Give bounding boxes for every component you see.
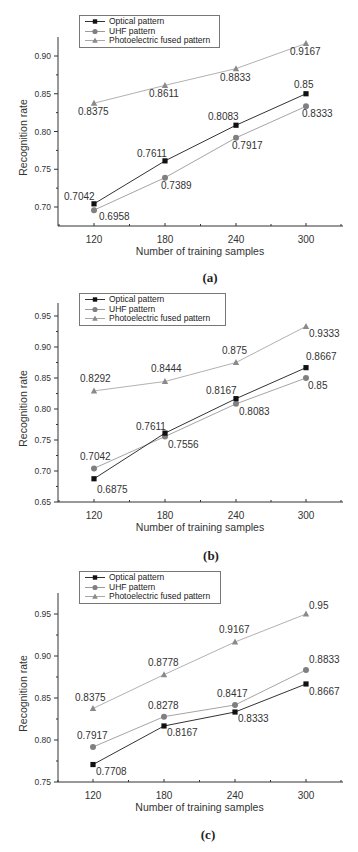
data-label: 0.8667 bbox=[306, 351, 337, 362]
y-tick-label: 0.95 bbox=[34, 311, 51, 321]
circle-marker-icon bbox=[84, 583, 106, 592]
square-marker bbox=[91, 201, 96, 206]
square-marker bbox=[233, 123, 238, 128]
x-tick-label: 240 bbox=[227, 790, 244, 801]
x-axis-title: Number of training samples bbox=[136, 245, 264, 257]
data-label: 0.7611 bbox=[137, 148, 167, 159]
data-label: 0.85 bbox=[308, 380, 328, 391]
data-label: 0.7917 bbox=[77, 730, 108, 741]
triangle-marker bbox=[303, 611, 309, 617]
square-marker-icon bbox=[84, 573, 106, 582]
data-label: 0.8444 bbox=[151, 363, 182, 374]
square-marker bbox=[303, 681, 308, 686]
circle-marker bbox=[91, 207, 97, 213]
line-chart-c: 0.750.800.850.900.95120180240300Number o… bbox=[0, 560, 358, 852]
square-marker bbox=[303, 365, 308, 370]
data-label: 0.8278 bbox=[148, 700, 179, 711]
data-label: 0.7556 bbox=[168, 439, 199, 450]
x-tick-label: 240 bbox=[228, 234, 245, 245]
data-label: 0.9333 bbox=[309, 328, 340, 339]
series-line bbox=[93, 684, 306, 765]
circle-marker-icon bbox=[84, 27, 106, 36]
series-triangle: 0.83750.86110.88330.9167 bbox=[78, 40, 321, 117]
x-tick-label: 180 bbox=[156, 790, 173, 801]
legend-c: Optical pattern UHF pattern Photoelectri… bbox=[79, 571, 221, 604]
data-label: 0.6875 bbox=[97, 484, 128, 495]
series-triangle: 0.83750.87780.91670.95 bbox=[75, 600, 329, 711]
data-label: 0.8333 bbox=[238, 713, 269, 724]
triangle-marker-icon bbox=[84, 36, 106, 45]
square-marker bbox=[303, 91, 308, 96]
square-marker bbox=[162, 158, 167, 163]
data-label: 0.8667 bbox=[309, 686, 340, 697]
y-tick-label: 0.90 bbox=[34, 51, 51, 61]
data-label: 0.7389 bbox=[161, 180, 192, 191]
square-marker bbox=[91, 476, 96, 481]
data-label: 0.8292 bbox=[80, 373, 111, 384]
square-marker bbox=[90, 762, 95, 767]
x-tick-label: 120 bbox=[86, 510, 103, 521]
y-tick-label: 0.80 bbox=[34, 404, 51, 414]
y-tick-label: 0.75 bbox=[34, 435, 51, 445]
circle-marker bbox=[92, 29, 97, 34]
legend-item-fused: Photoelectric fused pattern bbox=[84, 592, 216, 602]
data-label: 0.7611 bbox=[136, 421, 166, 432]
data-label: 0.95 bbox=[309, 600, 329, 611]
x-tick-label: 180 bbox=[157, 234, 174, 245]
data-label: 0.7042 bbox=[80, 451, 111, 462]
series-line bbox=[93, 670, 306, 747]
series-square: 0.77080.81670.83330.8667 bbox=[90, 681, 340, 776]
y-axis-title: Recognition rate bbox=[17, 99, 29, 176]
legend-label: Photoelectric fused pattern bbox=[109, 314, 210, 324]
y-tick-label: 0.80 bbox=[34, 735, 51, 745]
data-label: 0.9167 bbox=[219, 624, 250, 635]
data-label: 0.8778 bbox=[148, 657, 179, 668]
data-label: 0.6958 bbox=[99, 211, 130, 222]
data-label: 0.8833 bbox=[309, 654, 340, 665]
data-label: 0.7917 bbox=[232, 140, 263, 151]
data-label: 0.875 bbox=[222, 345, 247, 356]
circle-marker bbox=[91, 465, 97, 471]
square-marker bbox=[161, 723, 166, 728]
legend-a: Optical pattern UHF pattern Photoelectri… bbox=[79, 15, 220, 48]
x-axis-title: Number of training samples bbox=[135, 801, 263, 813]
data-label: 0.7708 bbox=[96, 766, 127, 777]
data-label: 0.8417 bbox=[217, 688, 248, 699]
square-marker bbox=[232, 709, 237, 714]
series-line bbox=[93, 614, 306, 709]
square-marker-icon bbox=[84, 17, 106, 26]
data-label: 0.8167 bbox=[167, 727, 198, 738]
axes: 0.650.700.750.800.850.900.95120180240300… bbox=[17, 303, 343, 533]
circle-marker bbox=[232, 702, 238, 708]
series-line bbox=[94, 368, 306, 479]
y-tick-label: 0.95 bbox=[34, 609, 51, 619]
data-label: 0.8083 bbox=[239, 406, 270, 417]
series-line bbox=[94, 378, 306, 468]
circle-marker bbox=[303, 667, 309, 673]
circle-marker bbox=[161, 714, 167, 720]
axes: 0.700.750.800.850.90120180240300Number o… bbox=[17, 37, 343, 257]
data-label: 0.8167 bbox=[206, 385, 237, 396]
circle-marker bbox=[92, 585, 97, 590]
y-tick-label: 0.75 bbox=[34, 777, 51, 787]
x-tick-label: 120 bbox=[86, 234, 103, 245]
circle-marker-icon bbox=[84, 305, 106, 314]
legend-item-fused: Photoelectric fused pattern bbox=[84, 314, 221, 324]
data-label: 0.8375 bbox=[78, 106, 109, 117]
chart-panel-b: 0.650.700.750.800.850.900.95120180240300… bbox=[0, 280, 358, 570]
figure-caption-c: (c) bbox=[201, 827, 215, 843]
y-axis-title: Recognition rate bbox=[17, 370, 29, 447]
y-tick-label: 0.85 bbox=[34, 373, 51, 383]
y-tick-label: 0.85 bbox=[34, 89, 51, 99]
x-tick-label: 180 bbox=[157, 510, 174, 521]
circle-marker bbox=[90, 744, 96, 750]
triangle-marker-icon bbox=[84, 314, 106, 323]
legend-label: Photoelectric fused pattern bbox=[109, 592, 210, 602]
series-line bbox=[94, 94, 306, 204]
y-tick-label: 0.90 bbox=[34, 342, 51, 352]
square-marker bbox=[93, 20, 97, 24]
x-tick-label: 300 bbox=[298, 234, 315, 245]
x-axis-title: Number of training samples bbox=[136, 521, 264, 533]
y-tick-label: 0.85 bbox=[34, 693, 51, 703]
y-tick-label: 0.65 bbox=[34, 497, 51, 507]
